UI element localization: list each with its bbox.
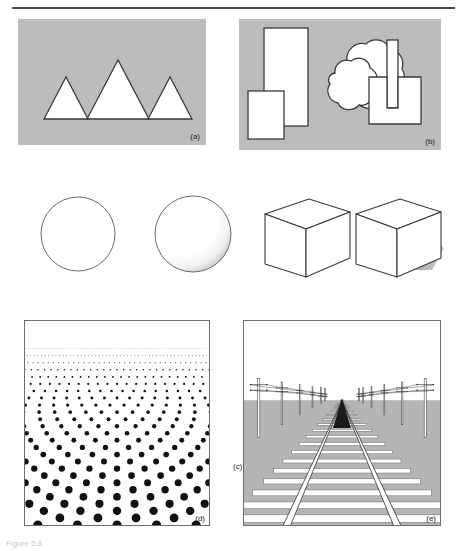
- texture-gradient-illustration: [25, 321, 209, 525]
- shading-and-shadow-panel: (c): [20, 186, 444, 292]
- figure-caption: Figure 5.8: [6, 538, 186, 549]
- sky: [244, 321, 440, 400]
- flat-circle: [41, 197, 115, 271]
- figure-root: (a) (b): [0, 0, 463, 551]
- triangle-large-center: [87, 60, 149, 119]
- small-rectangle-front: [248, 91, 284, 139]
- panel-label-a: (a): [190, 133, 200, 141]
- caption-strip: Figure 5.8: [6, 538, 186, 549]
- linear-perspective-panel: (e): [243, 320, 441, 526]
- shaded-sphere: [155, 196, 231, 272]
- interposition-illustration: [239, 19, 441, 150]
- interposition-panel: (b): [239, 19, 441, 150]
- relative-size-panel: (a): [18, 19, 206, 145]
- triangle-small-left: [44, 77, 88, 119]
- panel-label-e: (e): [426, 515, 436, 523]
- texture-gradient-panel: (d): [24, 320, 210, 526]
- triangle-small-right: [148, 77, 192, 119]
- top-horizontal-rule: [12, 7, 455, 9]
- dot-field: [25, 348, 209, 525]
- panel-label-c: (c): [233, 463, 242, 471]
- relative-size-illustration: [18, 19, 206, 145]
- vertical-bar: [387, 40, 398, 108]
- railway-perspective-illustration: [244, 321, 440, 525]
- panel-label-b: (b): [425, 138, 435, 146]
- panel-label-d: (d): [195, 515, 205, 523]
- shading-illustration: [20, 186, 444, 292]
- cube-no-shadow: [265, 199, 350, 277]
